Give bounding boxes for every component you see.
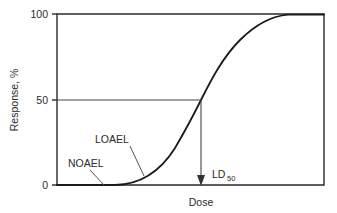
y-tick-labels: 100 50 0 xyxy=(30,8,48,191)
ld50-label: LD xyxy=(212,168,226,180)
y-tick-label-100: 100 xyxy=(30,8,48,20)
y-axis-ticks xyxy=(52,14,57,185)
noael-leader-line xyxy=(90,170,104,185)
dose-response-figure: NOAEL LOAEL LD 50 100 50 0 Response, % D… xyxy=(0,0,337,213)
noael-annotation-group: NOAEL xyxy=(68,157,104,185)
y-axis-title-group: Response, % xyxy=(8,69,20,131)
ld50-arrow-group xyxy=(197,100,205,186)
x-axis-title-group: Dose xyxy=(189,196,214,208)
dose-response-chart: NOAEL LOAEL LD 50 100 50 0 Response, % D… xyxy=(0,0,337,213)
loael-annotation-group: LOAEL xyxy=(95,133,144,176)
noael-label: NOAEL xyxy=(68,157,104,169)
ld50-subscript: 50 xyxy=(227,174,235,183)
ld50-annotation-group: LD 50 xyxy=(212,168,235,183)
loael-label: LOAEL xyxy=(95,133,129,145)
x-axis-title: Dose xyxy=(189,196,214,208)
loael-leader-line xyxy=(130,146,144,176)
y-axis-title: Response, % xyxy=(8,69,20,131)
y-tick-label-0: 0 xyxy=(42,179,48,191)
y-tick-label-50: 50 xyxy=(36,94,48,106)
